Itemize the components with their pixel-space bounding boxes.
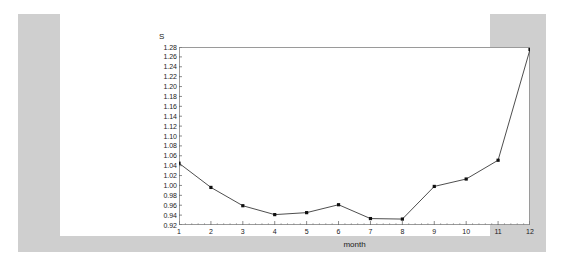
x-tick-label: 12 [520, 228, 540, 236]
y-tick-label: 1.28 [155, 44, 177, 51]
x-tick-label: 4 [265, 228, 285, 236]
data-point-marker [401, 217, 404, 220]
y-tick-label: 1.12 [155, 123, 177, 130]
y-axis-title: S [159, 32, 165, 41]
x-axis-title: month [179, 240, 530, 249]
x-tick-label: 11 [488, 228, 508, 236]
y-tick-label: 1.24 [155, 63, 177, 70]
x-tick-label: 8 [392, 228, 412, 236]
y-tick-label: 1.26 [155, 53, 177, 60]
y-tick-label: 1.22 [155, 73, 177, 80]
data-line [179, 49, 530, 219]
x-tick-label: 10 [456, 228, 476, 236]
chart-card: S 1.281.261.241.221.201.181.161.141.121.… [60, 14, 490, 236]
y-tick-label: 1.16 [155, 103, 177, 110]
data-point-marker [337, 203, 340, 206]
data-point-marker [209, 186, 212, 189]
data-point-marker [369, 217, 372, 220]
x-major-ticks [179, 221, 530, 225]
data-point-marker [433, 185, 436, 188]
y-tick-label: 1.10 [155, 133, 177, 140]
x-tick-label: 3 [233, 228, 253, 236]
y-tick-label: 1.00 [155, 182, 177, 189]
data-point-marker [305, 211, 308, 214]
y-tick-label: 0.94 [155, 212, 177, 219]
data-point-marker [496, 159, 499, 162]
x-tick-label: 1 [169, 228, 189, 236]
y-tick-label: 1.08 [155, 142, 177, 149]
y-axis-tick-labels: 1.281.261.241.221.201.181.161.141.121.10… [152, 47, 177, 225]
y-tick-label: 1.18 [155, 93, 177, 100]
y-tick-label: 1.14 [155, 113, 177, 120]
y-tick-label: 1.04 [155, 162, 177, 169]
x-tick-label: 9 [424, 228, 444, 236]
x-tick-label: 5 [297, 228, 317, 236]
x-axis-tick-labels: 123456789101112 [179, 228, 530, 240]
data-point-marker [241, 204, 244, 207]
data-point-marker [273, 213, 276, 216]
x-tick-label: 7 [360, 228, 380, 236]
y-major-ticks [179, 47, 182, 225]
y-tick-label: 0.98 [155, 192, 177, 199]
data-point-marker [465, 177, 468, 180]
data-point-marker [528, 48, 530, 51]
x-minor-ticks [185, 223, 523, 225]
x-tick-label: 2 [201, 228, 221, 236]
screenshot-root: S 1.281.261.241.221.201.181.161.141.121.… [0, 0, 562, 266]
y-tick-label: 1.20 [155, 83, 177, 90]
data-point-markers [179, 48, 530, 221]
y-tick-label: 1.02 [155, 172, 177, 179]
line-chart-plot [179, 47, 530, 225]
data-point-marker [179, 162, 181, 165]
y-tick-label: 0.96 [155, 202, 177, 209]
x-tick-label: 6 [329, 228, 349, 236]
y-tick-label: 1.06 [155, 152, 177, 159]
